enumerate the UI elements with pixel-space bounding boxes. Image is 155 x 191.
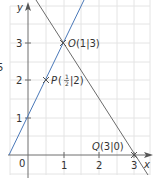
point-P-label: P( bbox=[51, 75, 62, 86]
point-P-frac-den: 2 bbox=[65, 80, 69, 87]
coordinate-graph: y x 0 1 2 3 1 2 3 5 O(1|3) P( 1 2 |2) Q(… bbox=[0, 0, 155, 191]
y-axis-label: y bbox=[16, 2, 24, 13]
grid bbox=[10, 0, 150, 175]
x-axis-label: x bbox=[143, 159, 150, 170]
point-P-label-rest: |2) bbox=[70, 75, 84, 87]
x-tick-1: 1 bbox=[61, 160, 67, 171]
origin-label: 0 bbox=[19, 158, 25, 169]
y-tick-2: 2 bbox=[16, 75, 22, 86]
edge-label: 5 bbox=[0, 62, 3, 73]
point-O-label: O(1|3) bbox=[68, 38, 100, 50]
axes bbox=[8, 7, 146, 178]
point-P-frac-num: 1 bbox=[65, 73, 69, 80]
x-tick-3: 3 bbox=[131, 160, 137, 171]
y-tick-1: 1 bbox=[16, 113, 22, 124]
point-Q-label: Q(3|0) bbox=[92, 141, 124, 153]
x-tick-2: 2 bbox=[96, 160, 102, 171]
y-tick-3: 3 bbox=[16, 38, 22, 49]
